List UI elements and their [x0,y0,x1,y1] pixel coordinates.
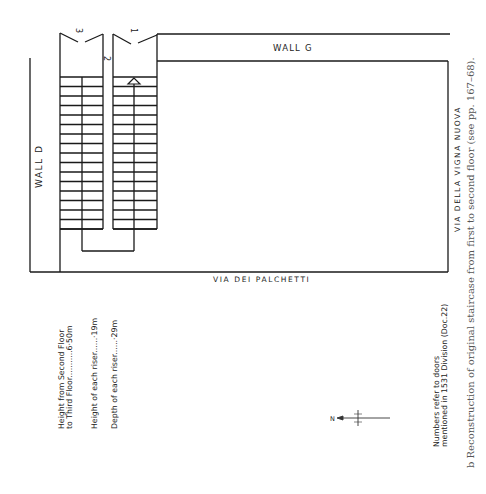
note-height-2: to Third Floor...........6·50m [65,325,74,429]
note-riser-depth: Depth of each riser......·29m [110,320,119,429]
door-3-left [60,33,78,42]
compass-north-arrow-icon [337,410,390,426]
staircase-plan: 3 1 2 WALL D WALL G VIA DEI PALCHETTI VI… [0,0,486,494]
door-1-label: 1 [129,28,138,33]
door-3-right [85,34,103,42]
door-1-left [113,34,131,44]
note-riser-height: Height of each riser......·19m [90,318,99,429]
wall-g-label: WALL G [273,43,313,53]
door-3-label: 3 [74,28,83,33]
door-2-label: 2 [102,56,111,61]
up-arrow-icon [128,78,140,84]
door-1-right [138,35,157,43]
via-palchetti-label: VIA DEI PALCHETTI [213,275,310,284]
via-vigna-label: VIA DELLA VIGNA NUOVA [453,106,462,232]
wall-d-label: WALL D [34,145,44,188]
note-numbers-2: mentioned in 1531 Division (Doc.22) [440,304,449,447]
right-flight-steps [113,77,157,229]
figure-caption: b Reconstruction of original staircase f… [465,57,476,468]
north-label: N [330,415,335,423]
